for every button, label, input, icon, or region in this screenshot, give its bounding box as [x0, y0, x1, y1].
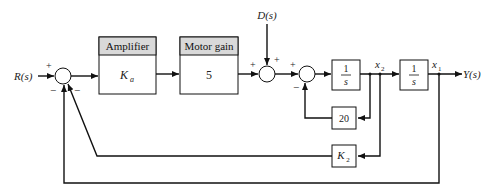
state-x1: x	[431, 58, 437, 70]
motor-gain-block: Motor gain 5	[180, 37, 238, 94]
integrator-2-den: s	[412, 76, 416, 87]
integrator-1-den: s	[344, 76, 348, 87]
inner-feedback-path-out	[305, 83, 332, 118]
sum1-minus-sign-1: −	[50, 84, 56, 96]
summing-junction-1	[55, 68, 71, 84]
amplifier-block: Amplifier K a	[99, 37, 156, 94]
sum3-plus-sign: +	[290, 59, 296, 70]
block-diagram: R(s) + − − Amplifier K a Motor gain 5 + …	[0, 0, 486, 192]
disturbance-label: D(s)	[256, 9, 277, 22]
amplifier-gain: K	[119, 68, 129, 82]
summing-junction-3	[299, 66, 315, 82]
sum2-plus-sign-2: +	[274, 54, 280, 65]
velocity-feedback-path-out	[68, 84, 332, 156]
velocity-feedback-block: K 2	[332, 145, 356, 167]
state-x1-sub: 1	[438, 65, 442, 73]
integrator-1-num: 1	[344, 63, 349, 74]
sum1-plus-sign: +	[46, 60, 52, 71]
velocity-feedback-gain: K	[336, 149, 345, 161]
velocity-feedback-path-in	[358, 74, 380, 156]
velocity-feedback-gain-sub: 2	[346, 156, 350, 164]
sum2-plus-sign-1: +	[250, 59, 256, 70]
motor-gain: 5	[206, 68, 212, 82]
sum1-minus-sign-2: −	[74, 84, 80, 96]
amplifier-gain-sub: a	[130, 75, 134, 84]
state-x2: x	[374, 58, 380, 70]
state-x2-sub: 2	[381, 65, 385, 73]
amplifier-header: Amplifier	[106, 40, 150, 52]
sum3-minus-sign: −	[293, 81, 299, 93]
integrator-1-block: 1 s	[332, 60, 360, 90]
summing-junction-2	[259, 66, 275, 82]
integrator-2-num: 1	[412, 63, 417, 74]
input-label: R(s)	[13, 70, 33, 83]
inner-feedback-block: 20	[332, 107, 356, 129]
motor-header: Motor gain	[184, 40, 234, 52]
output-label: Y(s)	[463, 68, 481, 81]
integrator-2-block: 1 s	[400, 60, 428, 90]
inner-feedback-gain: 20	[339, 113, 349, 124]
